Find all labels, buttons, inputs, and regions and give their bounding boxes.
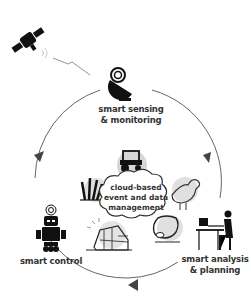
node-label-control: smart control [18,256,84,267]
robot-icon [0,0,251,299]
control-label-line1: smart control [18,256,84,267]
